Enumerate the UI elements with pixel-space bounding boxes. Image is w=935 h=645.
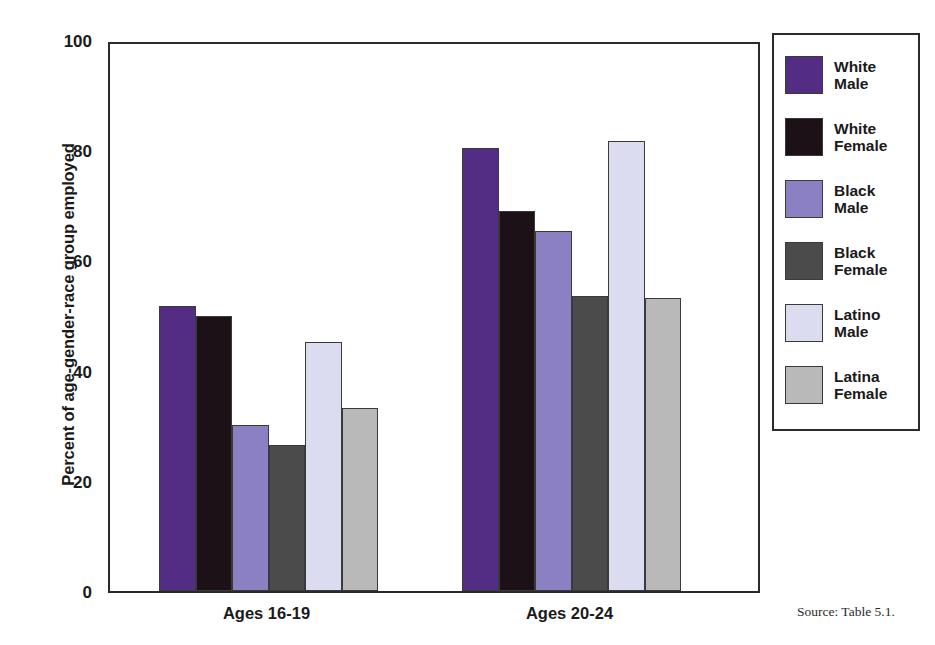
legend-label-black-female: BlackFemale: [834, 244, 887, 279]
source-note: Source: Table 5.1.: [797, 604, 895, 620]
y-tick-label-60: 60: [22, 252, 92, 272]
bar-ages-16-19-white-female: [196, 316, 233, 592]
bar-ages-20-24-white-female: [499, 211, 536, 591]
legend-label-line2: Female: [834, 137, 887, 154]
bar-ages-16-19-black-male: [232, 425, 269, 591]
legend-item-white-female[interactable]: WhiteFemale: [774, 106, 918, 168]
x-group-label-1: Ages 16-19: [223, 604, 310, 623]
legend-label-line2: Male: [834, 199, 875, 216]
legend-label-line2: Male: [834, 75, 876, 92]
legend-label-line1: Black: [834, 244, 887, 261]
legend-label-line1: White: [834, 58, 876, 75]
legend-label-line1: Latina: [834, 368, 887, 385]
x-group-label-2: Ages 20-24: [526, 604, 613, 623]
bar-ages-16-19-white-male: [159, 306, 196, 591]
legend-item-white-male[interactable]: WhiteMale: [774, 44, 918, 106]
bar-ages-16-19-latino-male: [305, 342, 342, 591]
bars-container: [110, 44, 758, 591]
legend-label-line2: Male: [834, 323, 881, 340]
legend-label-line1: White: [834, 120, 887, 137]
legend-swatch-white-female: [785, 118, 823, 156]
legend-item-latino-male[interactable]: LatinoMale: [774, 292, 918, 354]
legend-label-line2: Female: [834, 385, 887, 402]
y-tick-label-100: 100: [22, 32, 92, 52]
bar-ages-20-24-latino-male: [608, 141, 645, 591]
bar-ages-16-19-latina-female: [342, 408, 379, 591]
legend-swatch-black-female: [785, 242, 823, 280]
legend-label-black-male: BlackMale: [834, 182, 875, 217]
legend-label-latina-female: LatinaFemale: [834, 368, 887, 403]
plot-area: [108, 42, 760, 593]
bar-chart-figure: Percent of age-gender-race group employe…: [0, 0, 935, 645]
legend-label-line1: Latino: [834, 306, 881, 323]
legend-item-black-female[interactable]: BlackFemale: [774, 230, 918, 292]
legend-label-line2: Female: [834, 261, 887, 278]
legend-swatch-latina-female: [785, 366, 823, 404]
bar-ages-20-24-black-female: [572, 296, 609, 591]
y-tick-label-80: 80: [22, 142, 92, 162]
legend: WhiteMaleWhiteFemaleBlackMaleBlackFemale…: [772, 33, 920, 431]
legend-label-line1: Black: [834, 182, 875, 199]
legend-swatch-latino-male: [785, 304, 823, 342]
y-tick-label-20: 20: [22, 473, 92, 493]
legend-label-white-male: WhiteMale: [834, 58, 876, 93]
bar-ages-20-24-latina-female: [645, 298, 682, 591]
y-tick-label-40: 40: [22, 363, 92, 383]
bar-ages-20-24-black-male: [535, 231, 572, 591]
y-tick-label-0: 0: [22, 583, 92, 603]
y-axis-title: Percent of age-gender-race group employe…: [59, 55, 78, 575]
legend-label-latino-male: LatinoMale: [834, 306, 881, 341]
bar-ages-20-24-white-male: [462, 148, 499, 591]
legend-item-black-male[interactable]: BlackMale: [774, 168, 918, 230]
legend-label-white-female: WhiteFemale: [834, 120, 887, 155]
legend-swatch-black-male: [785, 180, 823, 218]
legend-swatch-white-male: [785, 56, 823, 94]
bar-ages-16-19-black-female: [269, 445, 306, 591]
legend-item-latina-female[interactable]: LatinaFemale: [774, 354, 918, 416]
